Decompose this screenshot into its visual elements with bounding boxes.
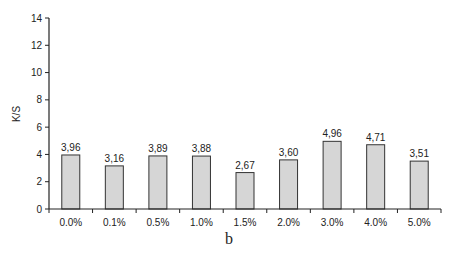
y-tick-label: 2 <box>36 176 42 187</box>
bar-value-label: 3,89 <box>148 143 168 154</box>
y-tick-label: 4 <box>36 149 42 160</box>
bars: 3,963,163,893,882,673,604,964,713,51 <box>61 128 429 209</box>
y-axis-title: K/S <box>11 106 22 122</box>
bar-value-label: 3,16 <box>105 153 125 164</box>
bar-value-label: 3,51 <box>409 148 429 159</box>
x-tick-label: 0.1% <box>103 217 126 228</box>
y-tick-label: 12 <box>31 40 43 51</box>
x-tick-label: 5.0% <box>408 217 431 228</box>
bar-value-label: 4,71 <box>366 132 386 143</box>
bar <box>236 173 254 209</box>
bar-chart: 02468101214 3,963,163,893,882,673,604,96… <box>0 0 458 260</box>
bar-value-label: 3,96 <box>61 142 81 153</box>
x-tick-label: 0.5% <box>146 217 169 228</box>
y-axis-ticks: 02468101214 <box>31 13 49 215</box>
x-tick-label: 2.0% <box>277 217 300 228</box>
x-tick-label: 0.0% <box>59 217 82 228</box>
bar <box>280 160 298 209</box>
bar <box>62 155 80 209</box>
x-tick-label: 4.0% <box>364 217 387 228</box>
bar-value-label: 2,67 <box>235 160 255 171</box>
bar <box>149 156 167 209</box>
bar-value-label: 3,88 <box>192 143 212 154</box>
y-tick-label: 14 <box>31 13 43 24</box>
x-tick-label: 1.0% <box>190 217 213 228</box>
bar <box>192 156 210 209</box>
bar <box>323 141 341 209</box>
bar-value-label: 4,96 <box>322 128 342 139</box>
y-tick-label: 6 <box>36 122 42 133</box>
y-tick-label: 10 <box>31 67 43 78</box>
bar <box>105 166 123 209</box>
bar <box>367 145 385 209</box>
figure-caption: b <box>0 230 458 248</box>
bar <box>410 161 428 209</box>
x-tick-label: 1.5% <box>234 217 257 228</box>
bar-value-label: 3,60 <box>279 147 299 158</box>
y-tick-label: 8 <box>36 94 42 105</box>
x-axis-ticks: 0.0%0.1%0.5%1.0%1.5%2.0%3.0%4.0%5.0% <box>49 209 441 228</box>
x-tick-label: 3.0% <box>321 217 344 228</box>
y-tick-label: 0 <box>36 204 42 215</box>
